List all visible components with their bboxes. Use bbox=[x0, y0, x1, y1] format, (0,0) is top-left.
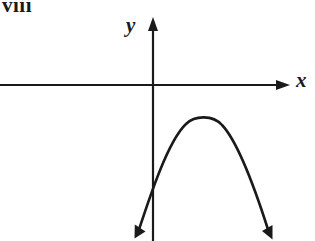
y-axis-label: y bbox=[126, 15, 135, 36]
parabola-figure: viii y x bbox=[0, 0, 315, 241]
x-axis-arrowhead-icon bbox=[276, 80, 290, 90]
x-axis-label: x bbox=[296, 70, 307, 91]
graph-canvas bbox=[0, 0, 315, 241]
figure-number-label: viii bbox=[2, 0, 32, 16]
y-axis-arrowhead-icon bbox=[148, 17, 158, 31]
parabola-curve bbox=[139, 117, 269, 231]
